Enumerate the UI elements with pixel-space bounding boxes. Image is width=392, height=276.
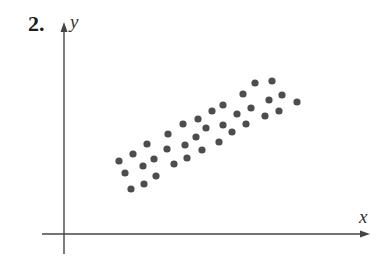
data-point	[183, 154, 190, 161]
data-point	[198, 146, 205, 153]
scatter-plot	[0, 0, 392, 276]
data-point	[129, 150, 136, 157]
x-axis-arrow-icon	[360, 231, 370, 238]
data-point	[233, 110, 240, 117]
data-point	[247, 104, 254, 111]
data-point	[194, 115, 201, 122]
data-point	[251, 79, 258, 86]
data-point	[268, 77, 275, 84]
data-point	[278, 91, 285, 98]
data-point	[115, 157, 122, 164]
scatter-figure: 2. y x	[0, 0, 392, 276]
data-point	[261, 112, 268, 119]
data-point	[219, 101, 226, 108]
data-point	[179, 120, 186, 127]
data-points	[115, 77, 300, 192]
data-point	[170, 160, 177, 167]
data-point	[127, 185, 134, 192]
axes	[42, 22, 370, 254]
data-point	[239, 90, 246, 97]
data-point	[219, 121, 226, 128]
data-point	[139, 162, 146, 169]
data-point	[228, 128, 235, 135]
data-point	[181, 141, 188, 148]
data-point	[152, 172, 159, 179]
data-point	[265, 96, 272, 103]
y-axis-arrow-icon	[61, 22, 68, 32]
data-point	[164, 130, 171, 137]
data-point	[192, 133, 199, 140]
data-point	[150, 155, 157, 162]
data-point	[163, 145, 170, 152]
data-point	[242, 120, 249, 127]
data-point	[121, 169, 128, 176]
data-point	[293, 98, 300, 105]
data-point	[202, 124, 209, 131]
data-point	[140, 180, 147, 187]
data-point	[275, 107, 282, 114]
data-point	[143, 140, 150, 147]
data-point	[215, 138, 222, 145]
data-point	[208, 107, 215, 114]
